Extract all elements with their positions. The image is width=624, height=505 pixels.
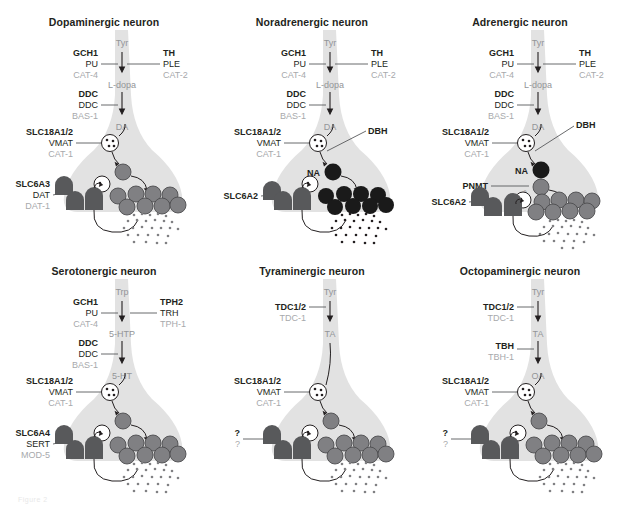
neuron-panel-grid: Dopaminergic neuron Tyr L-dopa DA GCH1	[0, 0, 624, 505]
metabolite-0: Tyr	[532, 287, 545, 297]
vmat-gene: SLC18A1/2	[442, 127, 489, 137]
transporter-ortholog: ?	[235, 439, 240, 449]
metabolite-1: 5-HTP	[109, 329, 135, 339]
vmat-protein: VMAT	[257, 387, 282, 397]
transporter-gene: ?	[235, 428, 241, 438]
transporter-protein: SERT	[26, 439, 50, 449]
enzyme-left-1-protein: DDC	[79, 100, 99, 110]
transporter-ortholog: ?	[443, 439, 448, 449]
synaptic-vesicle-cluster	[318, 435, 394, 464]
vmat-vesicle-icon	[518, 384, 535, 401]
metabolite-1: L-dopa	[524, 80, 552, 90]
metabolite-2: DA	[116, 122, 129, 132]
enzyme-right-0-ortholog: CAT-2	[371, 70, 396, 80]
enzyme-right-0-protein: TRH	[160, 308, 179, 318]
metabolite-2: 5-HT	[112, 371, 133, 381]
vmat-gene: SLC18A1/2	[442, 376, 489, 386]
panel-noradrenergic: Noradrenergic neuron Tyr L-dopa DA GCH1 …	[208, 0, 416, 255]
enzyme-right-0-gene: TPH2	[160, 297, 183, 307]
extra-enzyme-label: DBH	[576, 120, 596, 130]
enzyme-left-1-gene: DDC	[79, 89, 99, 99]
vesicle-na	[533, 162, 550, 179]
enzyme-left-0-ortholog: CAT-4	[489, 70, 514, 80]
enzyme-left-1-ortholog: BAS-1	[72, 111, 98, 121]
metabolite-1: TA	[325, 329, 336, 339]
vmat-protein: VMAT	[49, 387, 74, 397]
enzyme-left-0-ortholog: CAT-4	[73, 319, 98, 329]
vmat-protein: VMAT	[257, 138, 282, 148]
vmat-ortholog: CAT-1	[48, 398, 73, 408]
enzyme-left-1-ortholog: TBH-1	[488, 352, 514, 362]
enzyme-left-0-gene: GCH1	[73, 297, 98, 307]
metabolite-0: Tyr	[532, 38, 545, 48]
vmat-ortholog: CAT-1	[256, 398, 281, 408]
vmat-protein: VMAT	[465, 387, 490, 397]
synaptic-vesicle-cluster	[110, 435, 186, 464]
transporter-gene: SLC6A2	[223, 191, 258, 201]
enzyme-left-0-ortholog: CAT-4	[73, 70, 98, 80]
released-transmitter-dots	[539, 219, 596, 250]
enzyme-left-1-ortholog: BAS-1	[488, 111, 514, 121]
enzyme-left-1-gene: TBH	[496, 341, 515, 351]
enzyme-left-0-protein: PU	[501, 59, 514, 69]
metabolite-1: L-dopa	[316, 80, 344, 90]
enzyme-left-1-ortholog: BAS-1	[72, 360, 98, 370]
extra-enzyme-label: DBH	[368, 126, 388, 136]
metabolite-2: DA	[532, 122, 545, 132]
enzyme-left-1-gene: DDC	[79, 338, 99, 348]
vmat-ortholog: CAT-1	[48, 149, 73, 159]
transporter-ortholog: DAT-1	[25, 201, 50, 211]
enzyme-left-0-ortholog: CAT-4	[281, 70, 306, 80]
transporter-gene: ?	[443, 428, 449, 438]
synaptic-vesicle-cluster	[528, 192, 600, 220]
metabolite-0: Tyr	[324, 287, 337, 297]
enzyme-right-0-protein: PLE	[163, 59, 180, 69]
vesicle	[115, 164, 131, 180]
vmat-gene: SLC18A1/2	[26, 127, 73, 137]
transporter-ortholog: MOD-5	[21, 450, 50, 460]
vmat-ortholog: CAT-1	[464, 149, 489, 159]
enzyme-right-0-ortholog: CAT-2	[163, 70, 188, 80]
terminal-metabolite: NA	[515, 166, 528, 176]
enzyme-left-0-ortholog: TDC-1	[488, 313, 515, 323]
enzyme-right-0-ortholog: CAT-2	[579, 70, 604, 80]
metabolite-0: Trp	[115, 287, 128, 297]
synaptic-vesicle-cluster	[110, 186, 186, 215]
enzyme-left-0-protein: PU	[85, 308, 98, 318]
vmat-vesicle-icon	[518, 135, 535, 152]
enzyme-right-0-ortholog: TPH-1	[160, 319, 186, 329]
panel-tyraminergic: Tyraminergic neuron Tyr TA TDC1/2 TDC-1 …	[208, 255, 416, 505]
metabolite-1: L-dopa	[108, 80, 136, 90]
vesicle	[531, 413, 547, 429]
synaptic-vesicle-cluster	[318, 186, 394, 215]
enzyme-left-0-gene: GCH1	[281, 48, 306, 58]
panel-adrenergic: Adrenergic neuron Tyr L-dopa DA GCH1 PU …	[416, 0, 624, 255]
vmat-gene: SLC18A1/2	[234, 376, 281, 386]
figure-caption: Figure 2	[18, 496, 48, 503]
vmat-ortholog: CAT-1	[256, 149, 281, 159]
transporter-gene: SLC6A3	[15, 179, 50, 189]
vmat-protein: VMAT	[465, 138, 490, 148]
vmat-gene: SLC18A1/2	[234, 127, 281, 137]
vesicle	[115, 413, 131, 429]
enzyme-left-1-protein: DDC	[495, 100, 515, 110]
vmat-ortholog: CAT-1	[464, 398, 489, 408]
metabolite-0: Tyr	[324, 38, 337, 48]
vmat-protein: VMAT	[49, 138, 74, 148]
panel-octopaminergic: Octopaminergic neuron Tyr TA OA TDC1/2 T…	[416, 255, 624, 505]
enzyme-left-1-protein: DDC	[79, 349, 99, 359]
transporter-gene: SLC6A2	[431, 197, 466, 207]
vmat-vesicle-icon	[310, 135, 327, 152]
panel-serotonergic: Serotonergic neuron Trp 5-HTP 5-HT GCH1 …	[0, 255, 208, 505]
vmat-vesicle-icon	[310, 384, 327, 401]
enzyme-left-0-gene: TDC1/2	[275, 302, 306, 312]
panel-dopaminergic: Dopaminergic neuron Tyr L-dopa DA GCH1	[0, 0, 208, 255]
vmat-gene: SLC18A1/2	[26, 376, 73, 386]
enzyme-right-0-gene: TH	[579, 48, 591, 58]
enzyme-left-1-ortholog: BAS-1	[280, 111, 306, 121]
enzyme-left-0-protein: PU	[85, 59, 98, 69]
transporter-protein: DAT	[33, 190, 51, 200]
metabolite-0: Tyr	[116, 38, 129, 48]
enzyme-left-1-gene: DDC	[287, 89, 307, 99]
vesicle-a	[533, 179, 549, 195]
